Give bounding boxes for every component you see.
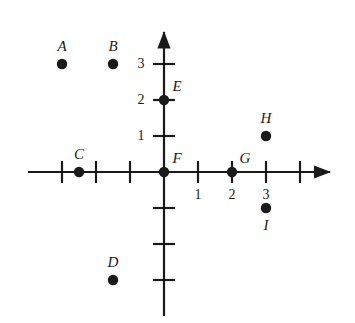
y-tick-label: 1 xyxy=(138,129,145,143)
point-label-B: B xyxy=(108,39,117,54)
point-dot-G xyxy=(227,167,237,177)
point-dot-B xyxy=(108,59,118,69)
x-tick-label: 3 xyxy=(263,188,270,202)
point-label-F: F xyxy=(172,151,181,166)
point-label-E: E xyxy=(172,79,181,94)
point-dot-F xyxy=(159,167,169,177)
point-dot-A xyxy=(57,59,67,69)
coordinate-plane-figure: 123123 ABCDEFGHI xyxy=(0,0,355,323)
point-dot-D xyxy=(108,275,118,285)
x-tick-label: 1 xyxy=(195,188,202,202)
point-dot-H xyxy=(261,131,271,141)
point-label-I: I xyxy=(264,218,269,233)
axis-group xyxy=(28,32,330,316)
point-dot-I xyxy=(261,203,271,213)
y-tick-label: 3 xyxy=(138,57,145,71)
y-tick-label: 2 xyxy=(138,93,145,107)
x-tick-label: 2 xyxy=(229,188,236,202)
point-label-C: C xyxy=(74,147,84,162)
point-dot-C xyxy=(74,167,84,177)
point-label-G: G xyxy=(240,151,251,166)
point-label-H: H xyxy=(261,111,272,126)
point-label-A: A xyxy=(57,39,66,54)
point-label-D: D xyxy=(108,255,119,270)
point-dot-E xyxy=(159,95,169,105)
